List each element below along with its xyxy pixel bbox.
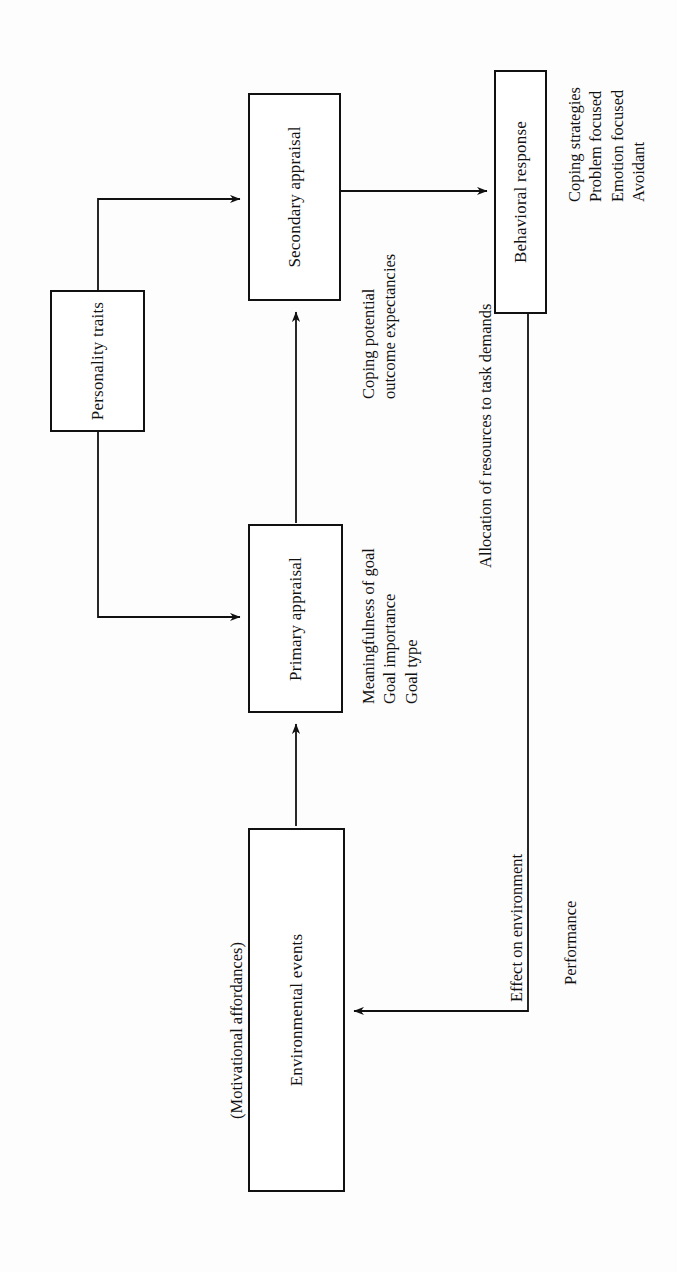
edge-traits-to-primary [98, 432, 240, 617]
node-label-secondary-appraisal: Secondary appraisal [285, 126, 305, 267]
caption-performance: Performance [560, 901, 581, 985]
node-secondary-appraisal[interactable]: Secondary appraisal [248, 93, 341, 301]
node-label-primary-appraisal: Primary appraisal [286, 557, 306, 681]
diagram-canvas: Secondary appraisal Behavioral response … [0, 0, 677, 1272]
caption-effect-on-environment: Effect on environment [506, 854, 527, 1002]
node-primary-appraisal[interactable]: Primary appraisal [248, 524, 343, 713]
caption-motivational-affordances: (Motivational affordances) [226, 942, 247, 1119]
caption-secondary-appraisal-detail: Coping potential outcome expectancies [358, 254, 401, 399]
node-label-environmental-events: Environmental events [287, 934, 307, 1087]
caption-allocation-of-resources: Allocation of resources to task demands [475, 304, 496, 568]
caption-primary-appraisal-detail: Meaningfulness of goal Goal importance G… [358, 548, 422, 704]
caption-coping-strategies: Coping strategies Problem focused Emotio… [564, 87, 650, 202]
node-behavioral-response[interactable]: Behavioral response [494, 70, 547, 314]
node-environmental-events[interactable]: Environmental events [248, 828, 345, 1192]
node-label-personality-traits: Personality traits [86, 302, 108, 420]
node-label-behavioral-response: Behavioral response [511, 121, 531, 263]
node-personality-traits[interactable]: Personality traits [50, 290, 145, 432]
edge-traits-to-secondary [98, 199, 240, 290]
